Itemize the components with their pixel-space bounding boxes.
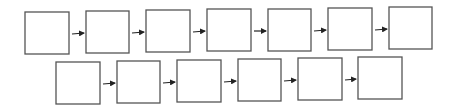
- flow-box-row1-6: [328, 8, 372, 50]
- arrow-right-icon: [193, 31, 205, 32]
- arrow-right-icon: [72, 33, 84, 34]
- flow-box-row1-1: [25, 12, 69, 54]
- flow-box-row1-2: [86, 11, 129, 53]
- flow-diagram: [0, 0, 452, 109]
- arrow-right-icon: [163, 82, 175, 83]
- arrow-right-icon: [314, 30, 326, 31]
- flow-box-row1-4: [207, 9, 251, 51]
- flow-box-row1-3: [146, 10, 190, 52]
- arrow-right-icon: [375, 29, 387, 30]
- flow-box-row2-5: [298, 58, 342, 100]
- flow-box-row2-3: [177, 60, 221, 102]
- arrow-right-icon: [345, 79, 356, 80]
- flow-box-row2-4: [238, 59, 281, 101]
- flow-box-row1-7: [389, 7, 432, 49]
- flow-box-row2-6: [358, 57, 402, 99]
- arrow-right-icon: [224, 81, 236, 82]
- flow-box-row1-5: [268, 9, 311, 51]
- arrow-right-icon: [103, 83, 115, 84]
- arrow-right-icon: [284, 80, 296, 81]
- flow-box-row2-1: [56, 62, 100, 104]
- arrow-right-icon: [132, 32, 144, 33]
- flow-box-row2-2: [117, 61, 160, 103]
